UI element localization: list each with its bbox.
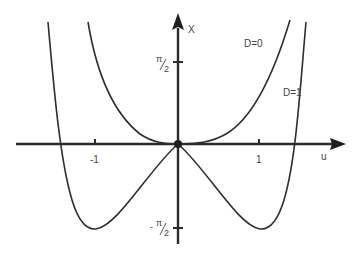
u-axis-arrow-icon (330, 138, 346, 150)
svg-text:-: - (150, 222, 153, 232)
tick-label-pi-half: π 2 (156, 54, 169, 74)
origin-marker (174, 140, 182, 148)
svg-text:2: 2 (164, 228, 169, 238)
curve-label-d1: D=1 (283, 87, 302, 98)
tick-label-neg1: -1 (90, 154, 99, 165)
potential-diagram: X u -1 1 π 2 - π 2 D=0 D=1 (0, 0, 355, 254)
u-axis-label: u (321, 151, 327, 162)
curve-label-d0: D=0 (244, 38, 263, 49)
x-axis-label: X (188, 24, 195, 35)
svg-text:π: π (156, 54, 162, 64)
svg-text:π: π (156, 218, 162, 228)
tick-label-pos1: 1 (256, 154, 262, 165)
x-axis-arrow-icon (172, 13, 184, 30)
svg-text:2: 2 (164, 64, 169, 74)
tick-label-neg-pi-half: - π 2 (150, 218, 169, 238)
